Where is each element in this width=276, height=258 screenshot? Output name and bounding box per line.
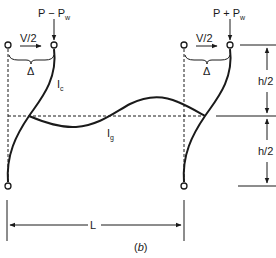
left-drift-brace <box>9 55 54 64</box>
left-axial-load-label: P − Pw <box>38 7 71 21</box>
left-drift-label: Δ <box>27 65 35 77</box>
right-shear-label: V/2 <box>196 32 213 44</box>
left-top-pin <box>51 42 57 48</box>
height-dimension <box>216 45 276 186</box>
right-base-pin <box>181 183 187 189</box>
left-shear-label: V/2 <box>20 32 37 44</box>
right-top-pin <box>227 42 233 48</box>
right-drift-label: Δ <box>203 65 211 77</box>
right-original-top-pin <box>181 42 187 48</box>
girder-inertia-label: Ig <box>107 127 114 142</box>
span-label: L <box>90 219 96 231</box>
right-axial-load-label: P + Pw <box>213 7 246 21</box>
left-base-pin <box>5 183 11 189</box>
portal-frame-diagram: P − Pw P + Pw V/2 V/2 Δ Δ Ic Ig h/2 h/2 … <box>0 0 276 258</box>
left-original-top-pin <box>5 42 11 48</box>
right-drift-brace <box>185 55 230 64</box>
lower-height-label: h/2 <box>258 145 273 157</box>
column-inertia-label: Ic <box>57 78 64 92</box>
figure-caption: (b) <box>134 241 147 253</box>
deformed-girder <box>29 97 205 127</box>
upper-height-label: h/2 <box>258 75 273 87</box>
undeformed-frame <box>8 49 203 182</box>
